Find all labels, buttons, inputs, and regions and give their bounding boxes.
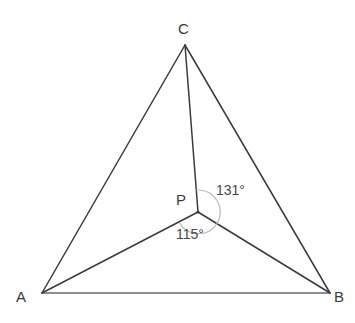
geometry-canvas xyxy=(0,0,355,323)
angle-label-apb: 115° xyxy=(176,226,204,242)
segment-cevian-PC xyxy=(185,45,198,212)
vertex-label-a: A xyxy=(16,288,26,305)
segment-side-BC xyxy=(185,45,330,293)
geometry-figure: A B C P 131° 115° xyxy=(0,0,355,323)
segment-cevian-PB xyxy=(198,212,330,293)
angle-label-cpb: 131° xyxy=(216,182,245,198)
vertex-label-c: C xyxy=(178,20,189,37)
point-P-marker xyxy=(196,210,199,213)
vertex-label-p: P xyxy=(176,191,186,208)
vertex-label-b: B xyxy=(334,288,344,305)
